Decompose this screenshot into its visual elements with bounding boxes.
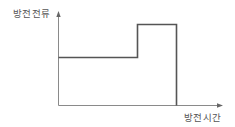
discharge-current-step-line (59, 25, 177, 106)
y-axis-arrow-icon (56, 11, 60, 17)
chart-plot (0, 0, 235, 127)
x-axis-arrow-icon (217, 103, 223, 107)
x-axis (59, 103, 224, 107)
